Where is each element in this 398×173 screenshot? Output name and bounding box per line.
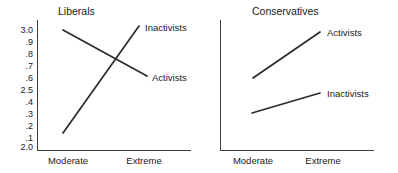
y-tick-label: .8 (25, 49, 33, 59)
y-tick-label: .6 (25, 73, 33, 83)
y-tick-label: 2.0 (20, 142, 33, 152)
y-tick-label: .3 (25, 109, 33, 119)
series-line-activists-liberals (63, 30, 147, 76)
x-category-label-extreme-liberals: Extreme (126, 155, 161, 166)
x-category-label-extreme-conservatives: Extreme (305, 155, 340, 166)
y-tick-label: 3.0 (20, 25, 33, 35)
y-tick-label: .4 (25, 97, 33, 107)
panel-conservatives: Conservatives Activists Inactivists Mode… (221, 5, 375, 166)
series-label-activists-conservatives: Activists (327, 27, 362, 38)
y-tick-label: .7 (25, 61, 33, 71)
y-tick-labels-liberals: 3.0 .9 .8 .7 .6 2.5 .4 .3 .2 .1 2.0 (20, 25, 33, 152)
series-label-activists-liberals: Activists (152, 72, 187, 83)
series-line-inactivists-liberals (63, 26, 139, 133)
series-label-inactivists-conservatives: Inactivists (327, 88, 369, 99)
x-category-label-moderate-conservatives: Moderate (233, 155, 273, 166)
panel-title-conservatives: Conservatives (252, 5, 319, 17)
series-label-inactivists-liberals: Inactivists (145, 22, 187, 33)
series-line-inactivists-conservatives (252, 93, 320, 113)
x-category-label-moderate-liberals: Moderate (48, 155, 88, 166)
panel-title-liberals: Liberals (58, 5, 95, 17)
y-tick-label: 2.5 (20, 85, 33, 95)
chart-figure: Liberals 3.0 .9 .8 .7 .6 2.5 .4 .3 .2 .1… (0, 0, 398, 173)
series-line-activists-conservatives (253, 32, 320, 78)
chart-canvas: Liberals 3.0 .9 .8 .7 .6 2.5 .4 .3 .2 .1… (0, 0, 398, 173)
y-tick-label: .2 (25, 121, 33, 131)
y-tick-label: .9 (25, 37, 33, 47)
panel-liberals: Liberals 3.0 .9 .8 .7 .6 2.5 .4 .3 .2 .1… (20, 5, 191, 166)
